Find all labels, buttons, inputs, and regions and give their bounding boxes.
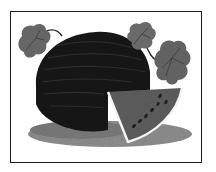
ground-shadow (28, 121, 192, 147)
leaf-left (18, 24, 50, 58)
watermelon-illustration (0, 0, 216, 172)
leaf-right-lower (154, 40, 190, 84)
